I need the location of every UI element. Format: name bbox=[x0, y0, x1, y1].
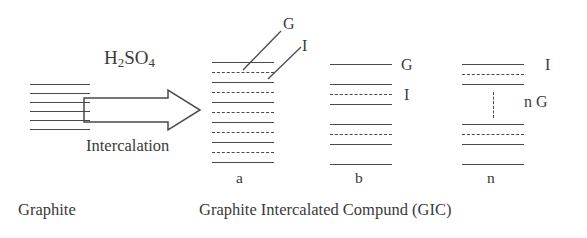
layer-stage-a-1-intercalant bbox=[212, 72, 274, 73]
layer-stage-a-4-graphene bbox=[212, 102, 274, 103]
layer-graphite-5-graphene bbox=[30, 129, 90, 130]
layer-stage-a-3-intercalant bbox=[212, 92, 274, 93]
layer-stage-b-3-graphene bbox=[330, 104, 392, 105]
figure-vector-overlay bbox=[0, 0, 587, 238]
layer-stage-a-0-graphene bbox=[212, 62, 274, 63]
layer-stage-n-4-intercalant bbox=[462, 134, 524, 135]
layer-stage-n-1-intercalant bbox=[462, 74, 524, 75]
layer-stage-a-2-graphene bbox=[212, 82, 274, 83]
layer-stage-b-4-graphene bbox=[330, 124, 392, 125]
layer-graphite-0-graphene bbox=[30, 84, 90, 85]
layer-stage-n-5-graphene bbox=[462, 144, 524, 145]
layer-stage-n-2-graphene bbox=[462, 84, 524, 85]
layer-stage-a-6-graphene bbox=[212, 122, 274, 123]
intercalation-arrow bbox=[84, 90, 200, 130]
repeat-indicator-stage-n bbox=[493, 92, 494, 118]
layer-stage-n-0-graphene bbox=[462, 64, 524, 65]
layer-stage-a-5-intercalant bbox=[212, 112, 274, 113]
layer-stage-b-7-graphene bbox=[330, 164, 392, 165]
layer-stage-a-9-intercalant bbox=[212, 152, 274, 153]
layer-graphite-4-graphene bbox=[30, 120, 90, 121]
gic-figure: H2SO4 Intercalation Graphite Graphite In… bbox=[0, 0, 587, 238]
leader-line-intercalant bbox=[268, 47, 301, 79]
layer-stage-b-6-graphene bbox=[330, 144, 392, 145]
layer-stage-b-5-intercalant bbox=[330, 134, 392, 135]
layer-stage-a-10-graphene bbox=[212, 162, 274, 163]
layer-stage-b-1-graphene bbox=[330, 84, 392, 85]
layer-stage-b-0-graphene bbox=[330, 64, 392, 65]
leader-line-graphene bbox=[243, 31, 281, 70]
layer-stage-n-3-graphene bbox=[462, 124, 524, 125]
layer-graphite-1-graphene bbox=[30, 93, 90, 94]
layer-graphite-3-graphene bbox=[30, 111, 90, 112]
layer-graphite-2-graphene bbox=[30, 102, 90, 103]
layer-stage-a-7-intercalant bbox=[212, 132, 274, 133]
layer-stage-b-2-intercalant bbox=[330, 94, 392, 95]
layer-stage-a-8-graphene bbox=[212, 142, 274, 143]
layer-stage-n-6-graphene bbox=[462, 164, 524, 165]
